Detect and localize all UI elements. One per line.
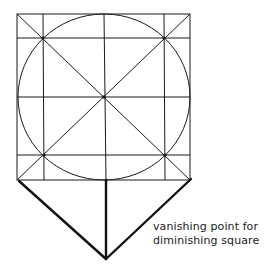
- perspective-line-left: [19, 181, 106, 259]
- intersection-dot: [41, 36, 44, 39]
- intersection-dot: [163, 153, 166, 156]
- intersection-dot: [162, 36, 165, 39]
- vanishing-point-caption: vanishing point for diminishing square: [153, 220, 259, 248]
- intersection-dot: [42, 153, 45, 156]
- intersection-dot: [102, 95, 106, 99]
- caption-line-1: vanishing point for: [153, 220, 259, 234]
- caption-line-2: diminishing square: [153, 234, 259, 248]
